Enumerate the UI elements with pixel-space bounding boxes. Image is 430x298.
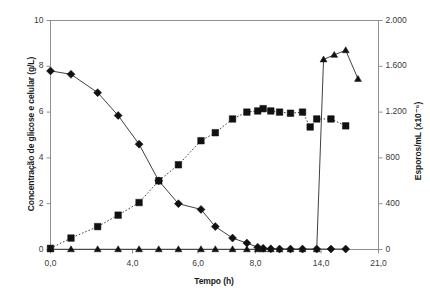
data-point-triangle	[355, 75, 362, 81]
data-point-square	[260, 105, 267, 112]
data-point-square	[342, 123, 349, 130]
data-point-diamond	[135, 140, 143, 148]
data-series	[47, 67, 350, 253]
data-point-triangle	[68, 246, 75, 252]
y-axis-right-ticks	[379, 21, 383, 250]
x-axis-tick-label: 21,0	[359, 258, 399, 268]
data-point-square	[244, 109, 251, 116]
x-axis-tick-label: 6,0	[178, 258, 218, 268]
chart-figure: Concentração de glicose e celular (g/L) …	[0, 0, 430, 298]
data-point-square	[94, 223, 101, 230]
data-point-square	[68, 235, 75, 242]
data-point-triangle	[155, 246, 162, 252]
data-point-triangle	[212, 246, 219, 252]
data-point-square	[115, 212, 122, 219]
series-line	[51, 71, 346, 249]
x-axis-tick-label: 4,0	[113, 258, 153, 268]
data-point-square	[268, 108, 275, 115]
plot-area	[0, 0, 430, 298]
data-point-diamond	[342, 245, 350, 253]
y-axis-right-tick-label: 0	[386, 244, 420, 254]
data-point-square	[198, 137, 205, 144]
y-axis-right-tick-label: 1.600	[386, 60, 420, 70]
data-point-triangle	[94, 246, 101, 252]
data-point-square	[328, 116, 335, 123]
data-series-layer	[47, 47, 362, 253]
data-point-square	[155, 178, 162, 185]
data-series	[47, 47, 361, 252]
y-axis-left-tick-label: 2	[18, 198, 44, 208]
y-axis-left-ticks	[47, 21, 51, 250]
data-point-triangle	[198, 246, 205, 252]
y-axis-left-tick-label: 6	[18, 106, 44, 116]
data-point-square	[212, 129, 219, 136]
data-point-diamond	[67, 70, 75, 78]
data-point-square	[313, 116, 320, 123]
data-point-square	[229, 116, 236, 123]
x-axis-tick-label: 14,0	[301, 258, 341, 268]
data-series	[47, 105, 349, 251]
data-point-triangle	[342, 47, 349, 53]
x-axis-tick-label: 8,0	[236, 258, 276, 268]
data-point-square	[299, 109, 306, 116]
data-point-square	[175, 161, 182, 168]
y-axis-left-tick-label: 4	[18, 152, 44, 162]
data-point-triangle	[320, 56, 327, 62]
y-axis-left-tick-label: 10	[18, 15, 44, 25]
data-point-square	[276, 109, 283, 116]
y-axis-right-tick-label: 800	[386, 152, 420, 162]
y-axis-right-tick-label: 2.000	[386, 15, 420, 25]
data-point-diamond	[229, 234, 237, 242]
data-point-triangle	[229, 246, 236, 252]
data-point-diamond	[47, 67, 55, 75]
series-line	[51, 50, 359, 249]
data-point-square	[136, 199, 143, 206]
data-point-square	[307, 124, 314, 131]
y-axis-right-tick-label: 1.200	[386, 106, 420, 116]
y-axis-left-tick-label: 8	[18, 60, 44, 70]
data-point-triangle	[243, 246, 250, 252]
data-point-triangle	[136, 246, 143, 252]
y-axis-left-tick-label: 0	[18, 244, 44, 254]
data-point-diamond	[327, 245, 335, 253]
x-axis-tick-label: 0,0	[31, 258, 71, 268]
data-point-triangle	[175, 246, 182, 252]
y-axis-right-tick-label: 400	[386, 198, 420, 208]
data-point-square	[287, 110, 294, 117]
data-point-triangle	[115, 246, 122, 252]
